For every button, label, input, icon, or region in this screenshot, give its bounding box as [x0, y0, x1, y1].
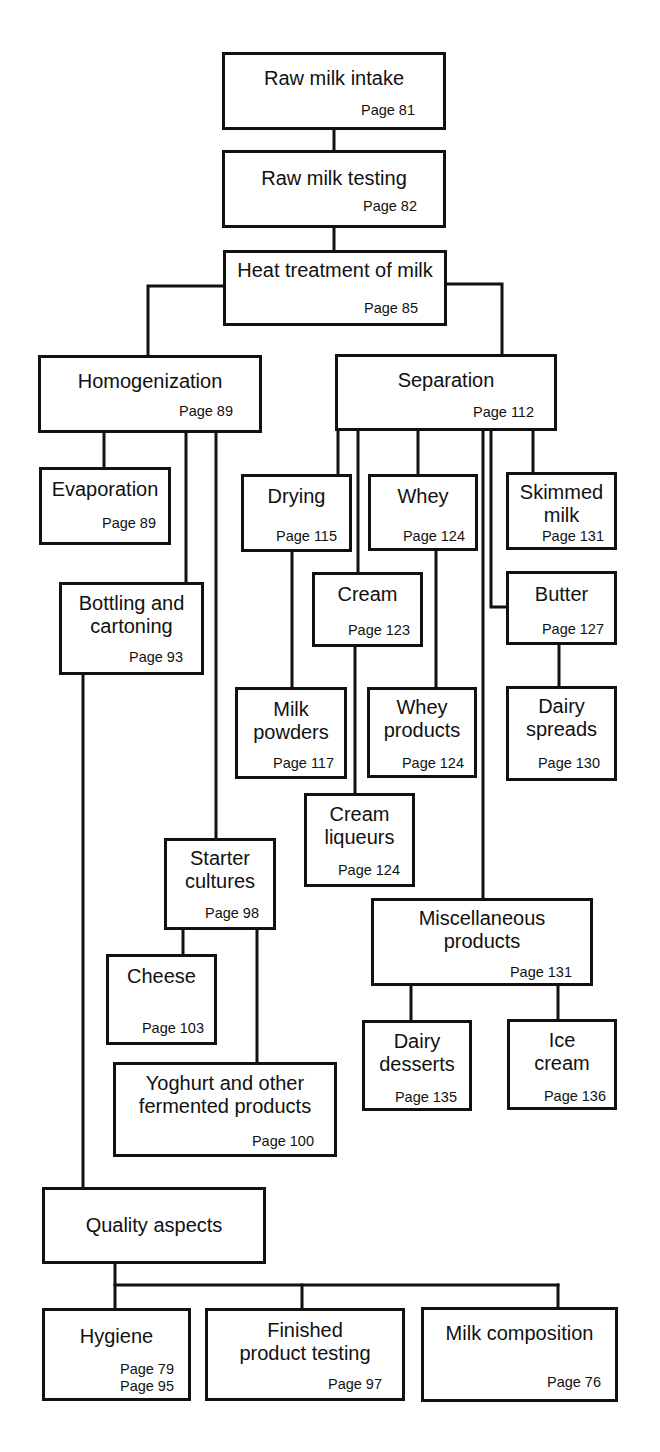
node-separation: Separation Page 112	[335, 354, 557, 431]
node-title: Cream	[315, 583, 420, 606]
node-page-ref: Page 124	[403, 528, 465, 545]
node-page-ref: Page 98	[205, 905, 259, 922]
node-page-ref: Page 124	[402, 755, 464, 772]
node-title: Starter cultures	[167, 847, 273, 893]
node-title: Cream liqueurs	[307, 803, 412, 849]
node-page-ref: Page 79 Page 95	[120, 1361, 174, 1395]
node-title: Finished product testing	[208, 1319, 402, 1365]
node-hygiene: Hygiene Page 79 Page 95	[42, 1308, 191, 1401]
node-evaporation: Evaporation Page 89	[39, 467, 171, 545]
node-title: Hygiene	[45, 1325, 188, 1348]
node-title: Bottling and cartoning	[62, 592, 201, 638]
node-starter-cultures: Starter cultures Page 98	[164, 838, 276, 930]
node-finished-product-testing: Finished product testing Page 97	[205, 1308, 405, 1401]
node-dairy-desserts: Dairy desserts Page 135	[362, 1020, 472, 1111]
node-page-ref: Page 131	[510, 964, 572, 981]
node-quality-aspects: Quality aspects	[42, 1187, 266, 1264]
node-ice-cream: Ice cream Page 136	[507, 1019, 617, 1110]
node-title: Skimmed milk	[509, 481, 614, 527]
node-page-ref: Page 89	[102, 515, 156, 532]
node-page-ref: Page 93	[129, 649, 183, 666]
node-title: Milk composition	[424, 1322, 615, 1345]
node-page-ref: Page 123	[348, 622, 410, 639]
node-page-ref: Page 76	[547, 1374, 601, 1391]
node-skimmed-milk: Skimmed milk Page 131	[506, 472, 617, 550]
node-page-ref: Page 100	[252, 1133, 314, 1150]
node-title: Separation	[338, 369, 554, 392]
node-page-ref: Page 131	[542, 528, 604, 545]
node-page-ref: Page 127	[542, 621, 604, 638]
node-cheese: Cheese Page 103	[106, 954, 217, 1045]
node-title: Raw milk testing	[225, 167, 443, 190]
node-page-ref: Page 136	[544, 1088, 606, 1105]
node-title: Whey	[371, 485, 475, 508]
node-butter: Butter Page 127	[506, 571, 617, 645]
node-title: Dairy desserts	[365, 1030, 469, 1076]
node-page-ref: Page 117	[273, 755, 334, 772]
node-title: Milk powders	[238, 698, 344, 744]
node-title: Drying	[244, 485, 349, 508]
node-title: Butter	[509, 583, 614, 606]
node-page-ref: Page 112	[473, 404, 534, 421]
node-raw-milk-intake: Raw milk intake Page 81	[222, 52, 446, 130]
node-title: Ice cream	[510, 1029, 614, 1075]
node-title: Miscellaneous products	[374, 907, 590, 953]
node-page-ref: Page 124	[338, 862, 400, 879]
node-page-ref: Page 135	[395, 1089, 457, 1106]
node-page-ref: Page 130	[538, 755, 600, 772]
node-homogenization: Homogenization Page 89	[38, 355, 262, 433]
node-title: Raw milk intake	[225, 67, 443, 90]
node-page-ref: Page 103	[142, 1020, 204, 1037]
node-page-ref: Page 89	[179, 403, 233, 420]
node-cream: Cream Page 123	[312, 572, 423, 647]
node-page-ref: Page 82	[363, 198, 417, 215]
node-milk-powders: Milk powders Page 117	[235, 687, 347, 779]
node-dairy-spreads: Dairy spreads Page 130	[506, 686, 617, 781]
node-bottling-cartoning: Bottling and cartoning Page 93	[59, 582, 204, 675]
node-title: Homogenization	[41, 370, 259, 393]
node-title: Whey products	[370, 696, 474, 742]
node-raw-milk-testing: Raw milk testing Page 82	[222, 150, 446, 228]
node-yoghurt-fermented: Yoghurt and other fermented products Pag…	[113, 1062, 337, 1157]
node-title: Quality aspects	[45, 1214, 263, 1237]
node-cream-liqueurs: Cream liqueurs Page 124	[304, 793, 415, 887]
dairy-process-flowchart: Raw milk intake Page 81 Raw milk testing…	[0, 0, 660, 1452]
node-whey-products: Whey products Page 124	[367, 687, 477, 778]
node-whey: Whey Page 124	[368, 474, 478, 551]
node-miscellaneous-products: Miscellaneous products Page 131	[371, 898, 593, 986]
node-page-ref: Page 85	[364, 300, 418, 317]
node-title: Cheese	[109, 965, 214, 988]
node-page-ref: Page 81	[361, 102, 415, 119]
node-title: Heat treatment of milk	[226, 259, 444, 282]
node-title: Evaporation	[42, 478, 168, 501]
node-drying: Drying Page 115	[241, 474, 352, 552]
node-title: Dairy spreads	[509, 695, 614, 741]
node-milk-composition: Milk composition Page 76	[421, 1307, 618, 1402]
node-title: Yoghurt and other fermented products	[116, 1072, 334, 1118]
node-heat-treatment: Heat treatment of milk Page 85	[223, 250, 447, 326]
node-page-ref: Page 97	[328, 1376, 382, 1393]
node-page-ref: Page 115	[276, 528, 337, 545]
